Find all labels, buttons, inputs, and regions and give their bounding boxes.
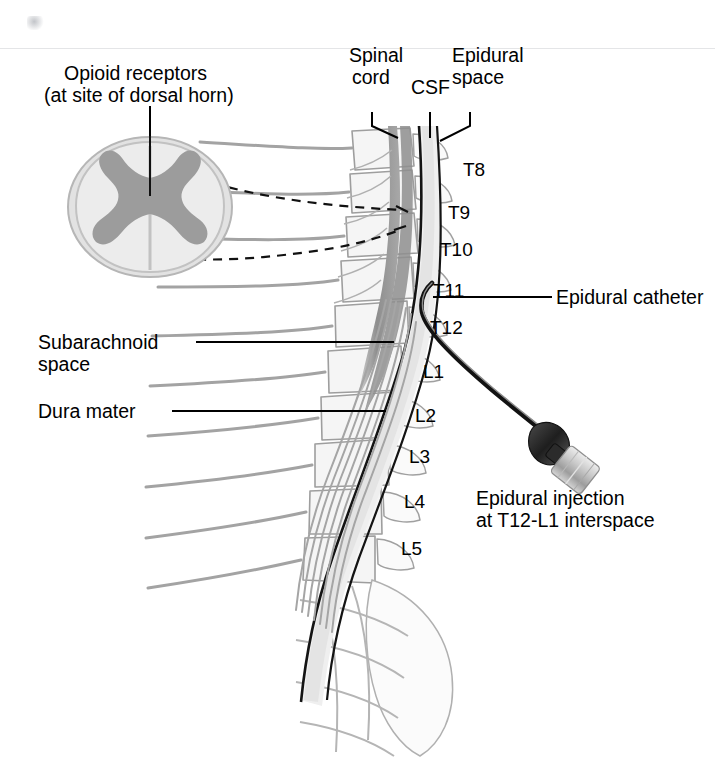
label-csf: CSF <box>411 76 450 98</box>
vertebral-level-label-t10: T10 <box>440 240 473 260</box>
vertebral-level-label-l1: L1 <box>423 362 444 382</box>
epidural-catheter <box>421 283 547 434</box>
label-epidural-catheter: Epidural catheter <box>556 286 703 308</box>
label-spinal-cord-line1: Spinal <box>349 44 403 66</box>
vertebral-level-label-l3: L3 <box>409 447 430 467</box>
figure-canvas: Opioid receptors (at site of dorsal horn… <box>0 0 715 765</box>
catheter-connector-hub <box>529 422 601 494</box>
vertebral-level-label-t9: T9 <box>448 203 470 223</box>
label-subarachnoid-space-line2: space <box>38 353 90 375</box>
vertebral-level-label-t11: T11 <box>433 281 464 301</box>
label-epidural-space-line1: Epidural <box>452 44 524 66</box>
label-opioid-receptors-line1: Opioid receptors <box>64 62 207 84</box>
leader-epidural-space <box>440 112 470 141</box>
label-dura-mater: Dura mater <box>38 400 136 422</box>
vertebral-level-label-l2: L2 <box>415 406 436 426</box>
label-epidural-space-line2: space <box>452 66 504 88</box>
label-opioid-receptors-line2: (at site of dorsal horn) <box>44 84 234 106</box>
spinal-cord-cross-section <box>68 133 232 277</box>
label-subarachnoid-space-line1: Subarachnoid <box>38 331 158 353</box>
label-spinal-cord-line2: cord <box>352 66 390 88</box>
spine-illustration <box>0 0 715 765</box>
label-epidural-injection-line1: Epidural injection <box>476 487 625 509</box>
label-epidural-injection-line2: at T12-L1 interspace <box>476 509 655 531</box>
vertebral-level-label-t8: T8 <box>463 160 485 180</box>
vertebral-level-label-l4: L4 <box>404 492 425 512</box>
vertebral-level-label-l5: L5 <box>401 539 422 559</box>
vertebral-level-label-t12: T12 <box>430 318 463 338</box>
